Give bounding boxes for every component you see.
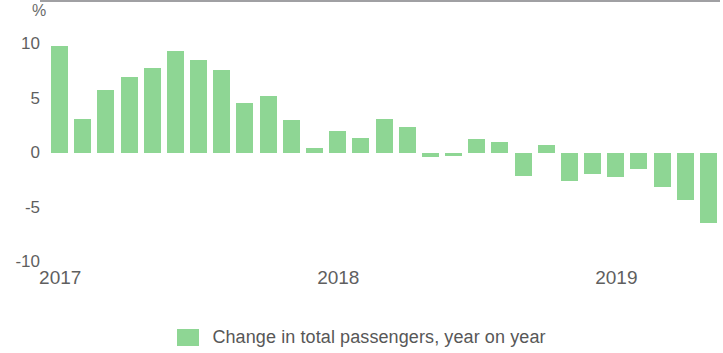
bar xyxy=(630,153,647,169)
bar xyxy=(376,119,393,153)
bar-chart: % 1050-5-10 201720182019 Change in total… xyxy=(0,0,723,353)
bar xyxy=(491,142,508,153)
x-axis-tick-label: 2017 xyxy=(39,268,81,287)
y-axis-tick-label: 10 xyxy=(0,35,40,52)
bar xyxy=(329,131,346,153)
chart-legend: Change in total passengers, year on year xyxy=(0,322,723,352)
bar xyxy=(97,90,114,153)
bar xyxy=(283,120,300,153)
bar xyxy=(422,153,439,157)
bar xyxy=(399,127,416,153)
bar xyxy=(144,68,161,153)
bar xyxy=(167,51,184,153)
bar xyxy=(190,60,207,153)
bar xyxy=(584,153,601,174)
bar xyxy=(352,138,369,153)
bar xyxy=(561,153,578,181)
bar xyxy=(260,96,277,153)
bar xyxy=(654,153,671,187)
y-axis-tick-label: -5 xyxy=(0,199,40,216)
plot-area xyxy=(48,0,720,300)
bar xyxy=(213,70,230,153)
legend-swatch-icon xyxy=(177,329,199,346)
bar xyxy=(51,46,68,153)
zero-baseline xyxy=(40,0,720,2)
y-axis: 1050-5-10 xyxy=(0,0,40,300)
x-axis: 201720182019 xyxy=(0,268,723,298)
bar xyxy=(468,139,485,153)
bar xyxy=(607,153,624,177)
bar xyxy=(538,145,555,153)
y-axis-tick-label: 5 xyxy=(0,90,40,107)
x-axis-tick-label: 2019 xyxy=(595,268,637,287)
bar xyxy=(74,119,91,153)
bar xyxy=(121,77,138,153)
legend-label: Change in total passengers, year on year xyxy=(212,327,545,348)
bar xyxy=(515,153,532,176)
bar xyxy=(306,148,323,153)
bar xyxy=(677,153,694,200)
bar xyxy=(445,153,462,156)
y-axis-tick-label: 0 xyxy=(0,144,40,161)
bar xyxy=(236,103,253,153)
x-axis-tick-label: 2018 xyxy=(317,268,359,287)
bar xyxy=(700,153,717,223)
